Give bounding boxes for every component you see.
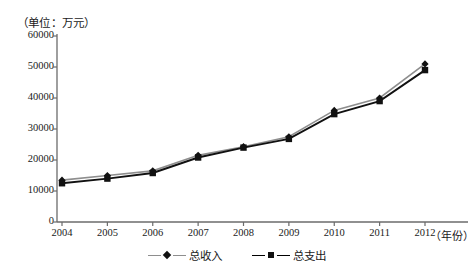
data-point-总支出-2009 bbox=[286, 136, 292, 142]
legend-item-income: 总收入 bbox=[148, 247, 222, 263]
data-point-总支出-2005 bbox=[104, 175, 110, 181]
data-point-总支出-2006 bbox=[150, 170, 156, 176]
line-chart: （单位：万元） 0100002000030000400005000060000 … bbox=[0, 0, 474, 270]
legend-line-expense bbox=[252, 255, 265, 256]
data-point-总支出-2004 bbox=[59, 180, 65, 186]
chart-legend: 总收入 总支出 bbox=[0, 247, 474, 263]
legend-item-expense: 总支出 bbox=[252, 247, 326, 263]
legend-label-income: 总收入 bbox=[189, 247, 222, 263]
chart-plot-area bbox=[0, 0, 474, 270]
data-point-总支出-2012 bbox=[422, 67, 428, 73]
data-point-总支出-2007 bbox=[195, 154, 201, 160]
data-point-总支出-2008 bbox=[240, 144, 246, 150]
square-marker-icon bbox=[268, 252, 274, 258]
data-point-总支出-2011 bbox=[376, 98, 382, 104]
legend-label-expense: 总支出 bbox=[293, 247, 326, 263]
series-line-总收入 bbox=[62, 64, 425, 180]
legend-line-expense-right bbox=[277, 255, 290, 256]
legend-line-income bbox=[148, 255, 161, 256]
diamond-marker-icon bbox=[163, 251, 171, 259]
series-line-总支出 bbox=[62, 70, 425, 183]
legend-line-income-right bbox=[173, 255, 186, 256]
data-point-总支出-2010 bbox=[331, 111, 337, 117]
